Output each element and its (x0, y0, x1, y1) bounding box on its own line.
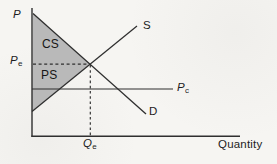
producer-surplus-label: PS (41, 69, 57, 81)
demand-curve-label: D (149, 106, 158, 118)
qe-base: Q (83, 137, 92, 149)
pc-base: P (177, 81, 185, 93)
surplus-shaded-region (32, 14, 90, 112)
equilibrium-price-label: Pe (10, 55, 22, 68)
pc-subscript: c (185, 86, 189, 95)
equilibrium-quantity-label: Qe (83, 138, 97, 151)
consumer-surplus-label: CS (42, 38, 59, 50)
supply-curve-label: S (143, 20, 151, 32)
y-axis-label: P (13, 9, 21, 21)
qe-subscript: e (92, 142, 96, 151)
x-axis-label: Quantity (218, 139, 262, 151)
pe-subscript: e (18, 59, 22, 68)
supply-demand-figure: P Quantity CS PS S D Pe Pc Qe (0, 0, 277, 164)
pe-base: P (10, 54, 18, 66)
price-c-label: Pc (177, 82, 189, 95)
